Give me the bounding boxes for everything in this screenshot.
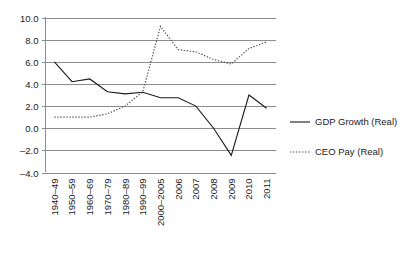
x-axis-tick-label: 1960–69 [84, 179, 95, 216]
y-axis-ticks [42, 19, 46, 174]
y-axis-tick-label: 0.0 [25, 123, 38, 134]
y-axis-tick-label: –2.0 [20, 145, 39, 156]
x-axis-tick-label: 1970–79 [102, 179, 113, 216]
x-axis-tick-label: 1980–89 [120, 179, 131, 216]
x-axis-tick-label: 1950–59 [66, 179, 77, 216]
chart-legend: GDP Growth (Real)CEO Pay (Real) [290, 116, 397, 157]
legend-label-ceo-pay: CEO Pay (Real) [315, 146, 383, 157]
x-axis-tick-label: 1990–99 [137, 179, 148, 216]
series-line-ceo-pay [54, 26, 266, 117]
x-axis-tick-label: 2000–2005 [155, 179, 166, 227]
y-axis-tick-label: 8.0 [25, 35, 38, 46]
x-axis-tick-label: 2006 [173, 179, 184, 200]
series-line-gdp-growth [54, 62, 266, 156]
y-axis-tick-label: –4.0 [20, 168, 39, 179]
y-axis-tick-label: 4.0 [25, 79, 38, 90]
x-axis-tick-label: 2008 [208, 179, 219, 200]
legend-label-gdp-growth: GDP Growth (Real) [315, 116, 397, 127]
chart-container: 10.08.06.04.02.00.0–2.0–4.0 1940–491950–… [0, 0, 413, 263]
gridlines [46, 19, 276, 174]
x-axis-tick-label: 2009 [226, 179, 237, 200]
x-axis-tick-label: 2007 [190, 179, 201, 200]
y-axis-tick-label: 6.0 [25, 57, 38, 68]
y-axis-tick-label: 2.0 [25, 101, 38, 112]
x-axis-tick-label: 2011 [261, 179, 272, 199]
series-layer [54, 26, 266, 155]
x-axis-tick-labels: 1940–491950–591960–691970–791980–891990–… [49, 179, 272, 227]
x-axis-tick-label: 2010 [243, 179, 254, 200]
y-axis-tick-label: 10.0 [20, 13, 39, 24]
line-chart: 10.08.06.04.02.00.0–2.0–4.0 1940–491950–… [0, 0, 413, 263]
x-axis-tick-label: 1940–49 [49, 179, 60, 216]
y-axis-tick-labels: 10.08.06.04.02.00.0–2.0–4.0 [20, 13, 39, 179]
